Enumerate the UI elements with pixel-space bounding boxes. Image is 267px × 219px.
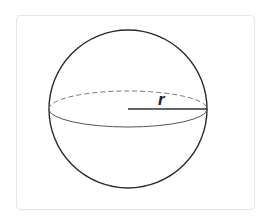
radius-label: r: [158, 91, 165, 108]
sphere-diagram: [0, 0, 267, 219]
equator-front: [49, 109, 207, 127]
equator-back-dashed: [49, 91, 207, 109]
